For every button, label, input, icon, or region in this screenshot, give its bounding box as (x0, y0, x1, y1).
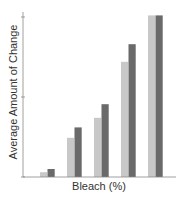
bar (121, 62, 128, 177)
bar (75, 127, 82, 177)
bar-chart (0, 0, 181, 201)
x-axis-label: Bleach (%) (23, 180, 175, 192)
bar (156, 15, 163, 177)
y-axis-label: Average Amount of Change (7, 17, 19, 167)
bar (40, 172, 47, 177)
bar (67, 138, 74, 177)
bar (148, 15, 155, 177)
bars-group (40, 15, 163, 177)
bar (48, 169, 55, 177)
bar (129, 44, 136, 177)
bar (102, 104, 109, 177)
bar (94, 118, 101, 177)
